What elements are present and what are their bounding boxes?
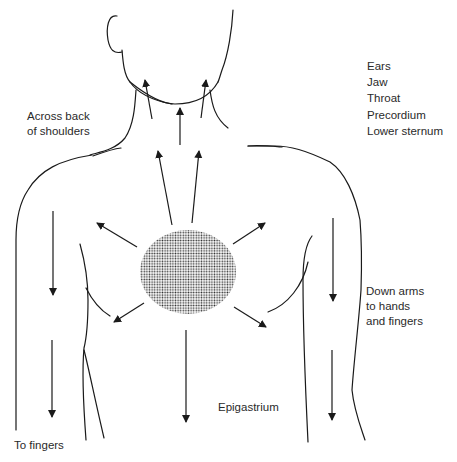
- label-precordium: Precordium: [367, 107, 443, 123]
- label-to-fingers: To fingers: [14, 438, 64, 453]
- arrow-up-right-chest: [192, 151, 199, 223]
- right-breast-outline: [268, 262, 308, 312]
- label-upward-sites-list: Ears Jaw Throat Precordium Lower sternum: [367, 58, 443, 139]
- pain-center-stipple: [140, 230, 236, 314]
- jaw-left-outline: [122, 50, 172, 104]
- label-throat: Throat: [367, 90, 443, 106]
- neck-right-outline: [210, 90, 228, 128]
- left-collar-outline: [93, 148, 121, 156]
- label-across-back-line1: Across back: [27, 109, 90, 124]
- arrow-to-left-shoulder: [97, 223, 137, 247]
- label-across-back: Across back of shoulders: [27, 109, 90, 139]
- right-torso-outline: [303, 236, 312, 442]
- label-down-arms-line1: Down arms: [366, 284, 424, 299]
- ear-outline: [107, 16, 122, 53]
- label-epigastrium: Epigastrium: [218, 400, 279, 415]
- arrow-to-left-jaw: [145, 80, 152, 119]
- head-right-outline: [218, 10, 233, 82]
- arrow-to-right-jaw: [201, 80, 206, 118]
- label-jaw: Jaw: [367, 74, 443, 90]
- left-inner-arm-outline: [84, 350, 104, 438]
- neck-left-outline: [90, 90, 136, 155]
- left-shoulder-outline: [16, 155, 92, 430]
- arrow-to-left-axilla: [114, 303, 144, 322]
- body-outline: [16, 10, 365, 442]
- label-down-arms-line2: to hands: [366, 299, 424, 314]
- label-down-arms: Down arms to hands and fingers: [366, 284, 424, 329]
- arrow-up-left-chest: [158, 151, 172, 225]
- arrow-to-right-shoulder: [233, 223, 265, 244]
- arrow-to-right-axilla: [234, 307, 266, 327]
- left-torso-outline: [80, 244, 88, 440]
- left-breast-outline: [86, 288, 110, 316]
- label-across-back-line2: of shoulders: [27, 124, 90, 139]
- label-lower-sternum: Lower sternum: [367, 123, 443, 139]
- label-ears: Ears: [367, 58, 443, 74]
- label-down-arms-line3: and fingers: [366, 314, 424, 329]
